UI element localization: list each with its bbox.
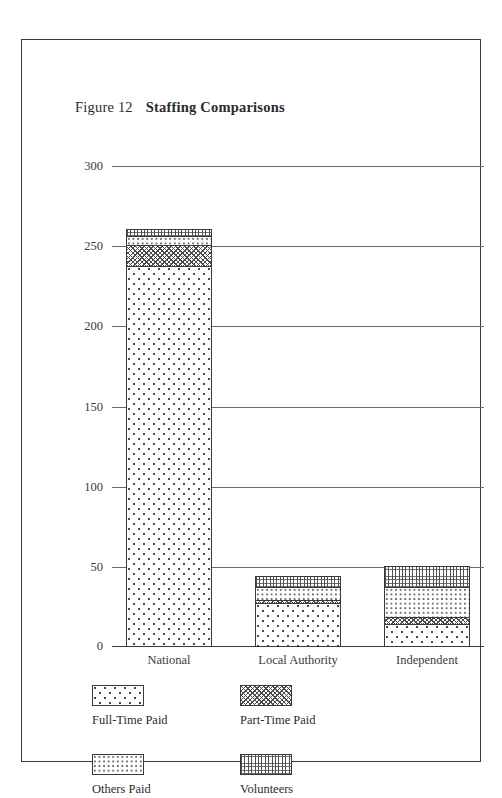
legend-label-full-time-paid: Full-Time Paid [92, 713, 240, 728]
chart-legend: Full-Time Paid Part-Time Paid Others Pai… [92, 685, 432, 798]
ytick-label-300: 300 [84, 159, 103, 174]
legend-row: Others Paid Volunteers [92, 754, 432, 797]
legend-swatch-part-time-paid [240, 685, 292, 706]
legend-item-full-time-paid[interactable]: Full-Time Paid [92, 685, 240, 728]
bar-independent[interactable]: Independent [384, 566, 470, 646]
legend-swatch-others-paid [92, 754, 144, 775]
bar-segment-local-authority-volunteers[interactable] [255, 576, 341, 587]
ytick-label-0: 0 [97, 639, 103, 654]
legend-label-part-time-paid: Part-Time Paid [240, 713, 388, 728]
gridline-300: 300 [112, 166, 484, 167]
legend-item-part-time-paid[interactable]: Part-Time Paid [240, 685, 388, 728]
figure-title: Figure 12Staffing Comparisons [75, 99, 285, 116]
figure-number: Figure 12 [75, 99, 133, 115]
chart-plot-area: 300 250 200 150 100 50 0 National [112, 166, 484, 647]
ytick-label-200: 200 [84, 319, 103, 334]
ytick-label-250: 250 [84, 239, 103, 254]
legend-label-others-paid: Others Paid [92, 782, 240, 797]
legend-row: Full-Time Paid Part-Time Paid [92, 685, 432, 728]
x-axis-baseline: 0 [112, 646, 484, 647]
xtick-label-independent: Independent [347, 653, 502, 668]
bar-segment-independent-others-paid[interactable] [384, 587, 470, 618]
bar-segment-local-authority-others-paid[interactable] [255, 587, 341, 600]
bar-segment-local-authority-full-time-paid[interactable] [255, 603, 341, 646]
bar-segment-national-full-time-paid[interactable] [126, 266, 212, 646]
legend-swatch-full-time-paid [92, 685, 144, 706]
bar-segment-national-part-time-paid[interactable] [126, 245, 212, 266]
ytick-label-150: 150 [84, 399, 103, 414]
bar-segment-independent-volunteers[interactable] [384, 566, 470, 587]
ytick-label-50: 50 [91, 559, 104, 574]
legend-item-others-paid[interactable]: Others Paid [92, 754, 240, 797]
ytick-label-100: 100 [84, 479, 103, 494]
figure-caption: Staffing Comparisons [146, 99, 285, 115]
legend-swatch-volunteers [240, 754, 292, 775]
legend-label-volunteers: Volunteers [240, 782, 388, 797]
bar-segment-independent-full-time-paid[interactable] [384, 624, 470, 647]
bar-local-authority[interactable]: Local Authority [255, 576, 341, 646]
legend-item-volunteers[interactable]: Volunteers [240, 754, 388, 797]
figure-frame: Figure 12Staffing Comparisons 300 250 20… [21, 39, 481, 762]
bar-segment-national-others-paid[interactable] [126, 236, 212, 246]
bar-national[interactable]: National [126, 229, 212, 646]
